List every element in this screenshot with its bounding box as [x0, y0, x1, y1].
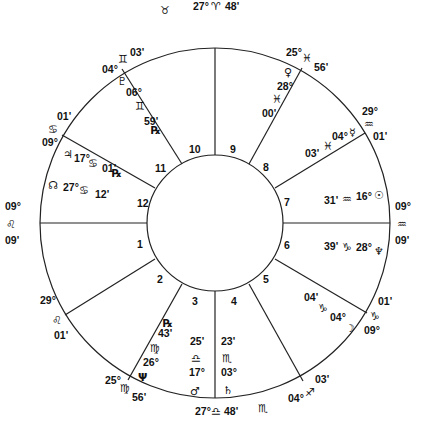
capricorn-icon: ♑ — [370, 310, 380, 323]
ic-minute: 48' — [224, 405, 238, 417]
cusp9-degree: 25° — [286, 46, 302, 58]
capricorn-icon-2: ♑ — [342, 241, 352, 254]
house-number-9: 9 — [230, 143, 236, 155]
scorpio-icon: ♏ — [258, 402, 268, 415]
virgo-icon-2: ♍ — [150, 342, 160, 355]
cusp6-minute: 01' — [378, 295, 392, 307]
house-number-12: 12 — [137, 197, 149, 209]
moon-degree: 04° — [330, 311, 346, 323]
house-number-1: 1 — [137, 238, 143, 250]
cusp3-degree: 25° — [105, 374, 121, 386]
cusp2-degree: 29° — [40, 294, 56, 306]
sun-degree: 16° — [356, 190, 372, 202]
mercury-minute: 03' — [305, 147, 319, 159]
mc-minute: 48' — [225, 0, 239, 12]
cusp9-minute: 56' — [314, 61, 328, 73]
inner-ring — [147, 155, 283, 291]
cancer-icon-2: ♋ — [88, 157, 98, 170]
house-number-7: 7 — [284, 196, 290, 208]
pisces-icon-2: ♓ — [272, 93, 282, 106]
virgo-icon: ♍ — [120, 382, 130, 395]
asc-minute: 09' — [5, 234, 19, 246]
gemini-icon-2: ♊ — [135, 100, 145, 113]
sun-icon: ☉ — [374, 189, 384, 202]
house-number-10: 10 — [189, 143, 201, 155]
cusp2-minute: 01' — [54, 329, 68, 341]
cusp8-degree: 29° — [362, 105, 378, 117]
cusp11-minute: 03' — [130, 46, 144, 58]
house-number-2: 2 — [157, 273, 163, 285]
mars-icon: ♂ — [190, 385, 200, 398]
cusp6-degree: 09° — [364, 324, 380, 336]
house-number-5: 5 — [263, 273, 269, 285]
mars-minute: 25' — [190, 335, 204, 347]
saturn-degree: 03° — [221, 366, 237, 378]
cusp-line-8 — [275, 133, 365, 188]
cancer-icon-3: ♋ — [79, 184, 89, 197]
cusp11-degree: 04° — [102, 63, 118, 75]
gemini-icon: ♊ — [118, 53, 128, 66]
node-minute: 12' — [95, 188, 109, 200]
cusp12-degree: 09° — [42, 136, 58, 148]
venus-icon: ♀ — [284, 66, 292, 79]
north-node-icon: ☊ — [48, 179, 58, 192]
house-number-3: 3 — [192, 295, 198, 307]
uranus-minute: 43' — [158, 327, 172, 339]
dsc-degree: 09° — [395, 200, 411, 212]
house-number-8: 8 — [263, 161, 269, 173]
pisces-icon: ♓ — [302, 52, 312, 65]
mars-degree: 17° — [189, 366, 205, 378]
leo-icon: ♌ — [6, 218, 16, 231]
jupiter-icon: ♃ — [63, 148, 73, 161]
pluto-degree: 06° — [126, 86, 142, 98]
neptune-minute: 39' — [324, 240, 338, 252]
cusp3-minute: 56' — [132, 391, 146, 403]
scorpio-icon-2: ♏ — [222, 352, 232, 365]
cusp8-minute: 01' — [373, 130, 387, 142]
leo-icon-2: ♌ — [52, 314, 62, 327]
house-number-6: 6 — [284, 239, 290, 251]
mercury-degree: 04° — [332, 130, 348, 142]
ic-degree: 27° — [195, 405, 211, 417]
cusp-line-5 — [249, 284, 303, 381]
mercury-icon: ☿ — [349, 126, 356, 139]
moon-minute: 04' — [304, 291, 318, 303]
saturn-minute: 23' — [221, 335, 235, 347]
neptune-degree: 28° — [356, 241, 372, 253]
retrograde-icon-2: ℞ — [112, 167, 122, 180]
cusp5-degree: 04° — [288, 392, 304, 404]
moon-icon: ☽ — [345, 322, 355, 335]
cancer-icon: ♋ — [48, 123, 58, 136]
house-number-11: 11 — [155, 162, 166, 174]
asc-degree: 09° — [5, 200, 21, 212]
sagittarius-icon: ♐ — [305, 386, 315, 399]
saturn-icon: ♄ — [223, 384, 233, 397]
house-number-4: 4 — [231, 295, 237, 307]
cusp12-minute: 01' — [57, 110, 71, 122]
node-degree: 27° — [63, 181, 79, 193]
neptune-icon: ♆ — [374, 245, 384, 258]
mc-degree: 27° — [193, 0, 209, 12]
aquarius-icon-3: ♒ — [342, 193, 352, 206]
libra-icon-2: ♎ — [191, 352, 201, 365]
aquarius-icon: ♒ — [397, 218, 407, 231]
venus-minute: 00' — [262, 107, 276, 119]
uranus-degree: 26° — [143, 356, 159, 368]
taurus-icon: ♉ — [160, 4, 170, 17]
retrograde-icon: ℞ — [151, 124, 161, 137]
neptune-trident-icon: Ψ — [138, 371, 147, 384]
astrology-chart-wheel: 1 2 3 4 5 6 7 8 9 10 11 12 27° ♈ 48' ♉ 2… — [0, 0, 430, 446]
aries-icon: ♈ — [211, 0, 221, 13]
cusp-line-2 — [65, 259, 155, 315]
dsc-minute: 09' — [395, 234, 409, 246]
capricorn-icon-3: ♑ — [318, 302, 328, 315]
cusp5-minute: 03' — [315, 373, 329, 385]
libra-icon: ♎ — [211, 405, 221, 418]
venus-degree: 28° — [277, 80, 293, 92]
sun-minute: 31' — [324, 194, 338, 206]
